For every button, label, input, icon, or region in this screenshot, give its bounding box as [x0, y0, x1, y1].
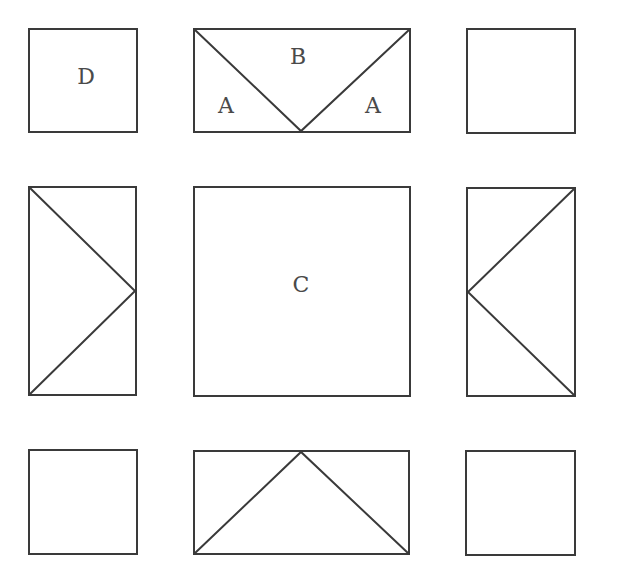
quilt-block-diagram: D B A A C [0, 0, 617, 587]
left-v-diagonals [29, 187, 135, 395]
bottom-right-square [466, 451, 575, 555]
bottom-v-diagonals [194, 452, 409, 554]
bottom-flying-geese-unit [194, 451, 409, 554]
label-c: C [293, 272, 310, 297]
middle-right-flying-geese-unit [467, 188, 575, 396]
middle-left-flying-geese-unit [29, 187, 136, 395]
label-d: D [77, 64, 95, 89]
top-right-square [467, 29, 575, 133]
label-b: B [290, 44, 306, 69]
right-v-diagonals [468, 188, 575, 396]
label-a-right: A [364, 93, 382, 118]
label-a-left: A [217, 93, 235, 118]
bottom-left-square [29, 450, 137, 554]
